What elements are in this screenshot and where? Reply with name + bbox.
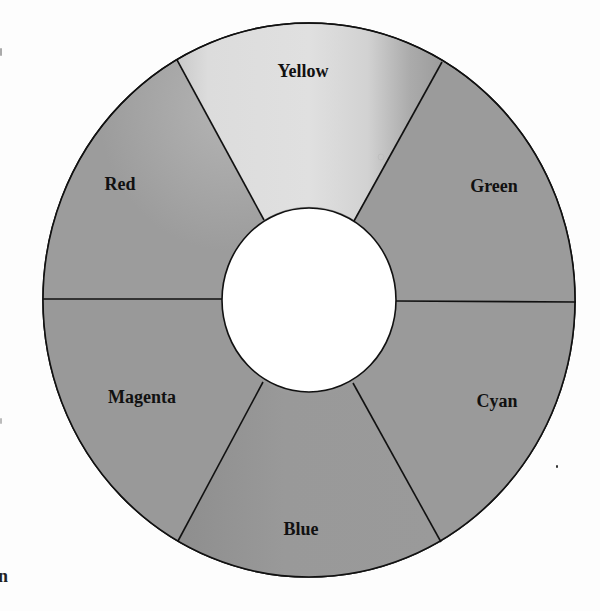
color-wheel: Yellow Green Cyan Blue Magenta Red	[0, 0, 600, 611]
label-green: Green	[470, 176, 518, 196]
dust-speck	[556, 465, 558, 468]
label-yellow: Yellow	[278, 61, 329, 81]
center-hole	[222, 208, 396, 392]
label-cyan: Cyan	[476, 391, 517, 411]
dust-speck	[0, 48, 2, 56]
label-red: Red	[105, 174, 136, 194]
dust-speck	[0, 418, 2, 424]
label-blue: Blue	[283, 519, 318, 539]
edge-text-fragment: n	[0, 566, 8, 587]
divider-green-cyan	[396, 301, 576, 302]
label-magenta: Magenta	[108, 387, 176, 407]
diagram-page: Yellow Green Cyan Blue Magenta Red n	[0, 0, 600, 611]
